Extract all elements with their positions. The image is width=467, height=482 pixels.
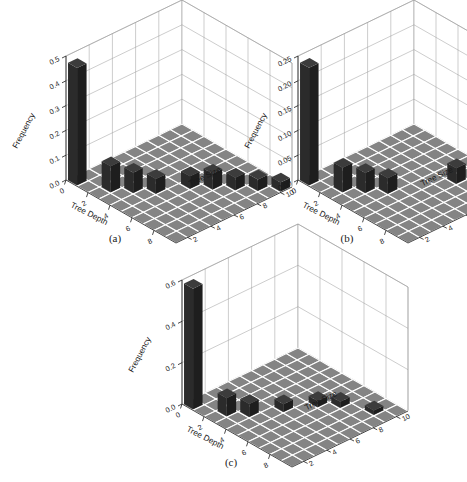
panel-b: 0.000.050.100.150.200.2502468246810Frequ… — [236, 4, 458, 232]
figure-3d-bar-charts: 0.00.10.20.30.40.502468246810FrequencyTr… — [0, 0, 467, 482]
z-tick-label: 0.2 — [164, 361, 177, 374]
x-tick-label: 0 — [174, 410, 182, 420]
bar-3d — [356, 163, 375, 193]
bar-3d — [300, 58, 319, 185]
x-tick-label: 0 — [58, 186, 66, 196]
panel-a: 0.00.10.20.30.40.502468246810FrequencyTr… — [4, 4, 226, 232]
y-tick-label: 8 — [377, 425, 385, 435]
chart-b: 0.000.050.100.150.200.2502468246810Frequ… — [236, 4, 458, 232]
bar-3d — [147, 169, 166, 193]
y-tick-label: 10 — [400, 412, 411, 424]
bar-3d — [124, 163, 143, 193]
z-tick-label: 0.05 — [276, 153, 293, 167]
bar-3d — [218, 388, 237, 416]
chart-a: 0.00.10.20.30.40.502468246810FrequencyTr… — [4, 4, 226, 232]
panel-c-caption: (c) — [120, 456, 342, 468]
z-tick-label: 0.4 — [164, 320, 177, 333]
z-tick-label: 0.10 — [276, 129, 293, 143]
z-tick-label: 0.6 — [164, 278, 177, 291]
panel-c: 0.00.20.40.602468246810FrequencyTree Dep… — [120, 228, 342, 456]
bar-3d — [334, 158, 353, 192]
z-tick-label: 0.4 — [48, 79, 61, 92]
z-tick-label: 0.3 — [48, 104, 61, 117]
bar-3d — [102, 157, 121, 193]
y-tick-label: 6 — [354, 436, 362, 446]
z-axis-title: Frequency — [243, 111, 270, 150]
bar-3d — [379, 168, 398, 193]
chart-c: 0.00.20.40.602468246810FrequencyTree Dep… — [120, 228, 342, 456]
x-tick-label: 0 — [290, 186, 298, 196]
bar-3d — [68, 58, 87, 185]
z-axis-title: Frequency — [11, 111, 38, 150]
z-tick-label: 0.2 — [48, 129, 61, 142]
z-tick-label: 0.25 — [276, 54, 293, 68]
z-tick-label: 0.15 — [276, 104, 293, 118]
bar-3d — [184, 279, 203, 409]
z-tick-label: 0.5 — [48, 54, 61, 67]
z-tick-label: 0.1 — [48, 153, 61, 166]
z-tick-label: 0.20 — [276, 79, 293, 93]
z-axis-title: Frequency — [127, 335, 154, 374]
